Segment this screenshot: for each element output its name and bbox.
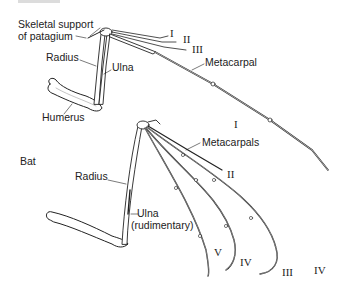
label-metacarpal: Metacarpal <box>205 56 257 68</box>
label-skeletal-support: Skeletal support <box>18 18 93 30</box>
label-humerus: Humerus <box>42 111 85 123</box>
label-pterosaur-ulna: Ulna <box>112 61 134 73</box>
bat-digit-2 <box>148 126 222 170</box>
bat-humerus <box>46 212 128 247</box>
label-bat-title: Bat <box>20 155 36 167</box>
label-pterosaur-digit-3: III <box>192 43 203 55</box>
label-bat-radius: Radius <box>75 170 108 182</box>
pterosaur-humerus <box>48 78 102 111</box>
label-bat-digit-3: III <box>282 266 293 278</box>
label-bat-digit-1: I <box>234 118 238 130</box>
label-pterosaur-digit-4: IV <box>314 264 326 276</box>
pterosaur-metacarpal <box>110 34 156 54</box>
label-bat-digit-4: IV <box>240 256 252 268</box>
bat-digit-1 <box>148 120 160 124</box>
label-bat-ulna: Ulna <box>137 207 159 219</box>
label-of-patagium: of patagium <box>18 30 73 42</box>
label-bat-ulna-rudimentary: (rudimentary) <box>131 219 193 231</box>
label-metacarpals: Metacarpals <box>202 136 259 148</box>
label-bat-digit-2: II <box>227 168 234 180</box>
label-pterosaur-radius: Radius <box>46 51 79 63</box>
label-pterosaur-digit-2: II <box>183 33 190 45</box>
wing-skeleton-diagram <box>0 0 346 304</box>
label-pterosaur-digit-1: I <box>170 27 174 39</box>
bat-digit-3 <box>147 127 277 274</box>
label-bat-digit-5: V <box>214 246 222 258</box>
bat-digit-5 <box>145 128 209 276</box>
